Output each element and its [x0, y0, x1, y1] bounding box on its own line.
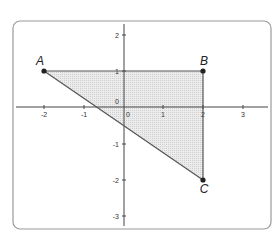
point-b: [200, 68, 205, 73]
label-c: C: [200, 182, 209, 196]
x-tick-label: 3: [241, 111, 245, 118]
y-tick-label: -3: [113, 213, 119, 220]
label-a: A: [35, 54, 44, 68]
x-tick-label: 1: [161, 111, 165, 118]
label-b: B: [200, 54, 208, 68]
point-a: [41, 68, 46, 73]
x-tick-label: 0: [126, 111, 130, 118]
coordinate-plane: -2 -1 0 1 2 3 2 1 0 -1 -2 -3 A B C: [0, 0, 276, 238]
y-tick-label: 2: [115, 32, 119, 39]
y-tick-label: 0: [115, 98, 119, 105]
x-tick-label: -1: [81, 111, 87, 118]
x-tick-label: -2: [41, 111, 47, 118]
y-tick-label: -1: [113, 141, 119, 148]
y-tick-label: -2: [113, 177, 119, 184]
